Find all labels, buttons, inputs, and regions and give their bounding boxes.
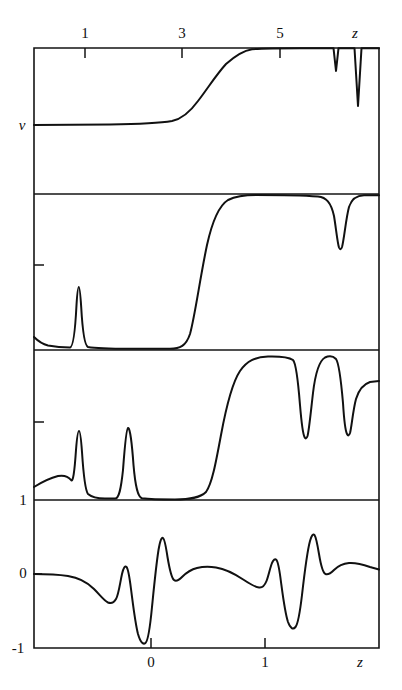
multi-panel-line-chart: 1 3 5 z v 1 0 -1 0 1 z [0, 0, 402, 690]
bottom-tick-label-0: 0 [147, 654, 155, 670]
bottom-tick-label-1: 1 [261, 654, 269, 670]
ylabel-v: v [19, 117, 26, 133]
panel-3-curve-group [34, 356, 379, 499]
top-axis-label-z: z [351, 25, 358, 41]
panel-4-curve [34, 535, 379, 644]
bottom-axis-ticks [151, 638, 265, 648]
panel-4-curve-group [34, 535, 379, 644]
left-axis-minor-ticks [34, 265, 44, 574]
ylabel-minus-one: -1 [12, 640, 25, 656]
plot-frame [34, 48, 379, 648]
ylabel-one: 1 [19, 492, 27, 508]
panel-dividers [34, 194, 379, 500]
bottom-axis-label-z: z [356, 654, 363, 670]
panel-1-curve [34, 48, 379, 125]
top-tick-label-1: 1 [81, 25, 89, 41]
ylabel-zero: 0 [19, 565, 27, 581]
top-tick-label-5: 5 [276, 25, 284, 41]
figure-container: 1 3 5 z v 1 0 -1 0 1 z [0, 0, 402, 690]
panel-3-curve [34, 356, 379, 499]
panel-2-curve [34, 195, 379, 349]
top-tick-label-3: 3 [178, 25, 186, 41]
panel-2-curve-group [34, 195, 379, 349]
panel-1-curve-group [34, 48, 379, 125]
